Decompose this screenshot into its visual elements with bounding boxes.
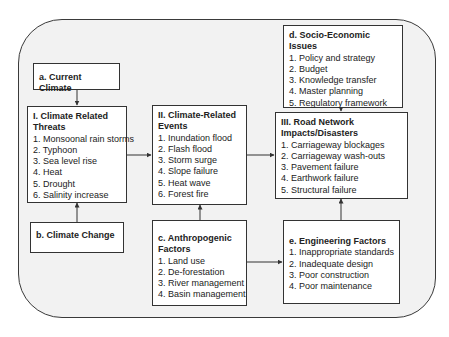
list-item: 4. Master planning — [289, 86, 397, 97]
engineering-factors-box: e. Engineering Factors 1. Inappropriate … — [283, 220, 400, 304]
socio-economic-title: d. Socio-Economic Issues — [289, 30, 397, 53]
list-item: 2. Inadequate design — [289, 259, 394, 270]
list-item: 2. Typhoon — [33, 145, 121, 156]
list-item: 1. Inappropriate standards — [289, 247, 394, 258]
road-impacts-list: 1. Carriageway blockages 2. Carriageway … — [281, 140, 402, 196]
list-item: 3. Pavement failure — [281, 162, 402, 173]
climate-threats-box: I. Climate Related Threats 1. Monsoonal … — [27, 106, 127, 203]
list-item: 3. Storm surge — [158, 155, 241, 166]
list-item: 5. Structural failure — [281, 185, 402, 196]
list-item: 2. De-forestation — [158, 267, 241, 278]
list-item: 1. Inundation flood — [158, 133, 241, 144]
road-impacts-title: III. Road Network Impacts/Disasters — [281, 117, 376, 140]
engineering-title: e. Engineering Factors — [289, 236, 394, 247]
engineering-list: 1. Inappropriate standards 2. Inadequate… — [289, 247, 394, 292]
socio-economic-list: 1. Policy and strategy 2. Budget 3. Know… — [289, 53, 397, 109]
threats-list: 1. Monsoonal rain storms 2. Typhoon 3. S… — [33, 134, 121, 202]
list-item: 2. Flash flood — [158, 144, 241, 155]
list-item: 1. Policy and strategy — [289, 53, 397, 64]
list-item: 6. Forest fire — [158, 189, 241, 200]
threats-title: I. Climate Related Threats — [33, 111, 121, 134]
events-list: 1. Inundation flood 2. Flash flood 3. St… — [158, 133, 241, 201]
list-item: 4. Basin management — [158, 289, 241, 300]
list-item: 4. Earthwork failure — [281, 173, 402, 184]
list-item: 4. Slope failure — [158, 166, 241, 177]
climate-change-title: b. Climate Change — [36, 230, 118, 241]
list-item: 3. River management — [158, 278, 241, 289]
list-item: 5. Heat wave — [158, 178, 241, 189]
climate-change-box: b. Climate Change — [30, 222, 124, 253]
list-item: 5. Regulatory framework — [289, 98, 397, 109]
events-title: II. Climate-Related Events — [158, 110, 238, 133]
list-item: 1. Land use — [158, 256, 241, 267]
socio-economic-box: d. Socio-Economic Issues 1. Policy and s… — [283, 25, 403, 108]
anthropogenic-list: 1. Land use 2. De-forestation 3. River m… — [158, 256, 241, 301]
anthropogenic-factors-box: c. Anthropogenic Factors 1. Land use 2. … — [152, 220, 247, 306]
anthropogenic-title: c. Anthropogenic Factors — [158, 233, 233, 256]
list-item: 2. Carriageway wash-outs — [281, 151, 402, 162]
current-climate-box: a. Current Climate — [33, 63, 120, 90]
road-impacts-box: III. Road Network Impacts/Disasters 1. C… — [275, 112, 408, 199]
list-item: 5. Drought — [33, 179, 121, 190]
list-item: 1. Monsoonal rain storms — [33, 134, 121, 145]
list-item: 3. Sea level rise — [33, 156, 121, 167]
list-item: 3. Knowledge transfer — [289, 75, 397, 86]
climate-events-box: II. Climate-Related Events 1. Inundation… — [152, 105, 247, 205]
list-item: 1. Carriageway blockages — [281, 140, 402, 151]
current-climate-title: a. Current Climate — [39, 72, 114, 95]
list-item: 3. Poor construction — [289, 270, 394, 281]
list-item: 4. Heat — [33, 167, 121, 178]
list-item: 6. Salinity increase — [33, 190, 121, 201]
list-item: 4. Poor maintenance — [289, 281, 394, 292]
list-item: 2. Budget — [289, 64, 397, 75]
